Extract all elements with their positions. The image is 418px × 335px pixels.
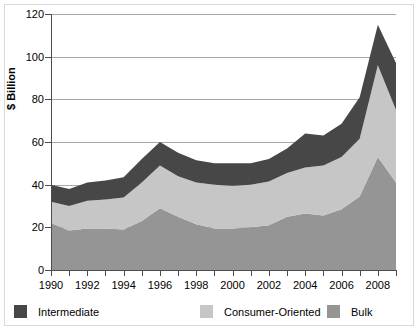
y-axis-tick-mark	[45, 99, 51, 100]
x-axis-tick-mark	[251, 271, 252, 276]
y-axis-tick-label: 0	[38, 264, 44, 276]
y-axis-tick-label: 80	[32, 93, 44, 105]
x-axis-tick-mark	[142, 271, 143, 276]
x-axis-tick-label: 1990	[39, 279, 63, 291]
x-axis-tick-mark	[378, 271, 379, 276]
y-axis-tick-label: 120	[26, 8, 44, 20]
legend-swatch-icon	[200, 305, 213, 318]
y-axis-tick-mark	[45, 14, 51, 15]
y-axis-tick-mark	[45, 227, 51, 228]
legend-item-consumer-oriented[interactable]: Consumer-Oriented	[200, 305, 321, 318]
x-axis-tick-mark	[105, 271, 106, 276]
y-axis-tick-label: 60	[32, 136, 44, 148]
x-axis-tick-mark	[287, 271, 288, 276]
x-axis-tick-label: 1996	[148, 279, 172, 291]
x-axis-tick-label: 2000	[220, 279, 244, 291]
x-axis-tick-mark	[124, 271, 125, 276]
x-axis-tick-label: 1994	[111, 279, 135, 291]
legend-label: Consumer-Oriented	[224, 306, 321, 318]
y-axis-tick-mark	[45, 142, 51, 143]
x-axis-tick-mark	[305, 271, 306, 276]
x-axis-tick-mark	[69, 271, 70, 276]
x-axis-tick-mark	[87, 271, 88, 276]
x-axis-tick-mark	[178, 271, 179, 276]
x-axis-tick-mark	[214, 271, 215, 276]
legend-item-intermediate[interactable]: Intermediate	[14, 305, 99, 318]
y-axis-tick-mark	[45, 185, 51, 186]
x-axis-tick-label: 1998	[184, 279, 208, 291]
y-axis-tick-label: 40	[32, 179, 44, 191]
x-axis-tick-label: 2002	[257, 279, 281, 291]
y-axis-line	[51, 14, 52, 271]
x-axis-tick-mark	[396, 271, 397, 276]
stacked-area-series	[51, 14, 396, 270]
x-axis-tick-mark	[51, 271, 52, 276]
x-axis-line	[51, 270, 397, 271]
legend-swatch-icon	[327, 305, 340, 318]
x-axis-tick-mark	[269, 271, 270, 276]
plot-area	[51, 14, 396, 270]
x-axis-tick-mark	[196, 271, 197, 276]
x-axis-tick-mark	[233, 271, 234, 276]
y-axis-tick-mark	[45, 270, 51, 271]
x-axis-tick-mark	[323, 271, 324, 276]
x-axis-tick-label: 1992	[75, 279, 99, 291]
y-axis-tick-label: 20	[32, 221, 44, 233]
x-axis-tick-mark	[160, 271, 161, 276]
x-axis-tick-label: 2006	[329, 279, 353, 291]
legend-label: Intermediate	[38, 306, 99, 318]
legend-item-bulk[interactable]: Bulk	[327, 305, 372, 318]
legend-swatch-icon	[14, 305, 27, 318]
chart-legend: IntermediateConsumer-OrientedBulk	[14, 305, 404, 325]
x-axis-tick-label: 2004	[293, 279, 317, 291]
chart-figure: $ Billion 020406080100120 19901992199419…	[0, 0, 418, 335]
legend-label: Bulk	[351, 306, 372, 318]
y-axis-tick-labels: 020406080100120	[0, 0, 44, 335]
y-axis-tick-mark	[45, 57, 51, 58]
y-axis-tick-label: 100	[26, 51, 44, 63]
x-axis-tick-mark	[360, 271, 361, 276]
x-axis-tick-mark	[342, 271, 343, 276]
x-axis-tick-label: 2008	[366, 279, 390, 291]
